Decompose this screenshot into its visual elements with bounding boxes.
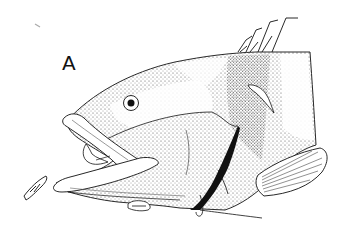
- parasite-under-jaw: [128, 201, 150, 211]
- panel-label: A: [62, 53, 76, 73]
- fish-illustration-figure: A: [0, 0, 347, 238]
- stray-mark: [35, 24, 40, 27]
- ventral-outline: [200, 210, 262, 218]
- dorsal-fin-spines: [238, 18, 298, 52]
- fish-head-drawing: [0, 0, 347, 238]
- detached-parasite: [24, 176, 47, 200]
- eye: [124, 96, 139, 111]
